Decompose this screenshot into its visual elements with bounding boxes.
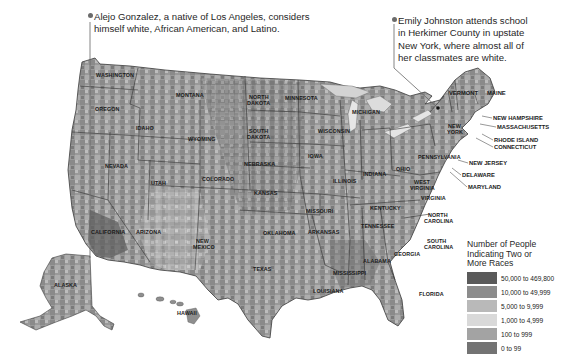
legend-items: 50,000 to 469,800 10,000 to 49,999 5,000…: [467, 272, 566, 356]
label-colorado: COLORADO: [202, 176, 234, 182]
legend-item: 10,000 to 49,999: [467, 286, 566, 300]
legend-swatch: [467, 328, 497, 341]
label-new-jersey: NEW JERSEY: [469, 160, 507, 166]
label-hawaii: HAWAII: [177, 310, 197, 316]
label-connecticut: CONNECTICUT: [494, 144, 537, 150]
legend-item: 100 to 999: [467, 328, 566, 342]
label-wisconsin: WISCONSIN: [318, 128, 350, 134]
legend-item: 0 to 99: [467, 342, 566, 356]
legend-swatch: [467, 300, 497, 313]
label-florida: FLORIDA: [419, 291, 444, 297]
callout-right-line1: Emily Johnston attends school: [398, 15, 558, 27]
legend-item: 50,000 to 469,800: [467, 272, 566, 286]
legend-item: 1,000 to 4,999: [467, 314, 566, 328]
map-legend: Number of People Indicating Two or More …: [467, 240, 566, 356]
label-pennsylvania: PENNSYLVANIA: [418, 154, 461, 160]
label-rhode-island: RHODE ISLAND: [494, 137, 538, 143]
label-arkansas: ARKANSAS: [308, 229, 340, 235]
callout-right-line3: New York, where almost all of: [398, 40, 558, 52]
label-virginia: VIRGINIA: [421, 195, 446, 201]
label-north-carolina-2: CAROLINA: [424, 218, 453, 224]
label-massachusetts: MASSACHUSETTS: [497, 124, 549, 130]
label-alabama: ALABAMA: [363, 258, 391, 264]
label-nebraska: NEBRASKA: [244, 161, 275, 167]
label-mississippi: MISSISSIPPI: [333, 270, 367, 276]
label-idaho: IDAHO: [136, 125, 154, 131]
label-michigan: MICHIGAN: [352, 109, 380, 115]
legend-swatch: [467, 286, 497, 299]
callout-dot-left: [88, 13, 93, 18]
label-ohio: OHIO: [396, 166, 410, 172]
herkimer-county-marker: [436, 106, 440, 110]
hawaii-shape: [138, 293, 200, 324]
label-illinois: ILLINOIS: [333, 178, 357, 184]
legend-title: Number of People Indicating Two or More …: [467, 240, 566, 269]
label-washington: WASHINGTON: [96, 72, 134, 78]
label-south-carolina-2: CAROLINA: [424, 244, 453, 250]
label-indiana: INDIANA: [363, 171, 386, 177]
callout-emily-johnston: Emily Johnston attends school in Herkime…: [398, 15, 558, 65]
legend-item: 5,000 to 9,999: [467, 300, 566, 314]
label-new-mexico-2: MEXICO: [193, 244, 215, 250]
label-kentucky: KENTUCKY: [370, 205, 401, 211]
callout-alejo-gonzalez: Alejo Gonzalez, a native of Los Angeles,…: [94, 11, 364, 36]
label-california: CALIFORNIA: [91, 229, 125, 235]
label-texas: TEXAS: [253, 266, 272, 272]
label-arizona: ARIZONA: [136, 229, 161, 235]
label-utah: UTAH: [151, 180, 166, 186]
label-maryland: MARYLAND: [468, 184, 501, 190]
callout-right-line4: her classmates are white.: [398, 52, 558, 64]
label-alaska: ALASKA: [54, 282, 77, 288]
label-maine: MAINE: [487, 90, 506, 96]
callout-left-line1: Alejo Gonzalez, a native of Los Angeles,…: [94, 11, 364, 23]
label-iowa: IOWA: [308, 153, 323, 159]
label-south-dakota-2: DAKOTA: [247, 134, 270, 140]
legend-swatch: [467, 342, 497, 355]
label-west-virginia-2: VIRGINIA: [410, 185, 435, 191]
label-missouri: MISSOURI: [306, 208, 334, 214]
label-georgia: GEORGIA: [394, 251, 420, 257]
label-montana: MONTANA: [176, 92, 204, 98]
label-delaware: DELAWARE: [462, 172, 495, 178]
callout-right-line2: in Herkimer County in upstate: [398, 27, 558, 39]
label-new-hampshire: NEW HAMPSHIRE: [493, 115, 543, 121]
label-new-york-2: YORK: [447, 129, 463, 135]
label-kansas: KANSAS: [254, 190, 278, 196]
label-minnesota: MINNESOTA: [285, 95, 318, 101]
label-oregon: OREGON: [95, 106, 120, 112]
label-louisiana: LOUISIANA: [313, 288, 344, 294]
label-wyoming: WYOMING: [188, 136, 216, 142]
legend-swatch: [467, 314, 497, 327]
label-north-dakota-2: DAKOTA: [247, 100, 270, 106]
label-vermont: VERMONT: [449, 90, 478, 96]
label-nevada: NEVADA: [105, 163, 128, 169]
callout-left-line2: himself white, African American, and Lat…: [94, 23, 364, 35]
label-oklahoma: OKLAHOMA: [263, 230, 296, 236]
label-tennessee: TENNESSEE: [361, 223, 395, 229]
alaska-shape: [20, 254, 114, 330]
callout-dot-right: [392, 17, 397, 22]
legend-swatch: [467, 272, 497, 285]
